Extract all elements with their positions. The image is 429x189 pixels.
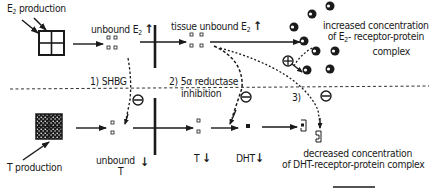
dashed-arrow-to-e2-complex: [294, 48, 312, 66]
tissue-t-label: T ↓: [194, 153, 211, 164]
down-arrow-icon: ↓: [202, 151, 211, 165]
unbound-e2-label: unbound E2 ↑: [91, 24, 153, 39]
up-arrow-icon: ↑: [253, 19, 262, 33]
dht-molecule: [246, 124, 250, 128]
tissue-unbound-e2-label: tissue unbound E2 ↑: [171, 21, 262, 36]
t-production-label: T production: [7, 162, 62, 173]
plus-circle-icon: [283, 56, 293, 66]
increased-concentration-label: increased concentration of E2- receptor-…: [323, 20, 429, 57]
minus-circle-icon: [133, 95, 143, 105]
unbound-t-molecules: [111, 121, 114, 134]
dht-label: DHT↓: [236, 153, 264, 164]
t-production-arrow: [23, 142, 49, 160]
tissue-t-molecules: [197, 119, 200, 133]
step1-shbg-label: 1) SHBG: [90, 76, 127, 87]
down-arrow-icon: ↓: [140, 157, 149, 168]
dht-receptor-complexes: [301, 120, 321, 142]
e2-gland-icon: [39, 31, 64, 55]
step2-inhibition-label: inhibition: [181, 88, 221, 99]
step2-5a-reductase-label: 2) 5α reductase: [169, 76, 238, 87]
step3-label: 3): [292, 92, 301, 103]
e2-production-label: E2 production: [7, 3, 66, 18]
down-arrow-icon: ↓: [255, 151, 264, 165]
unbound-t-label: unbound T: [96, 155, 135, 177]
t-gland-icon: [36, 114, 62, 139]
decreased-concentration-label: decreased concentration of DHT-receptor-…: [282, 148, 425, 170]
minus-circle-icon: [321, 91, 331, 101]
dashed-shbg-path: [126, 58, 131, 120]
up-arrow-icon: ↑: [145, 22, 154, 36]
minus-circle-icon: [241, 92, 251, 102]
